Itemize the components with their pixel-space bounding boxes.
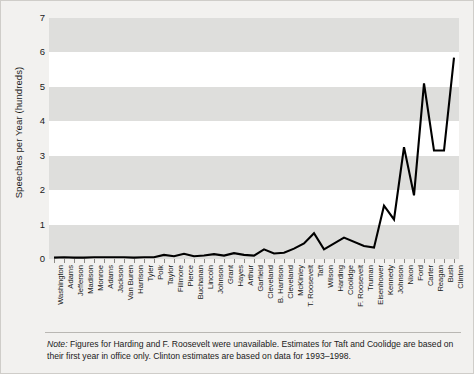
x-axis-tick-label: Garfield xyxy=(257,265,265,292)
x-axis-tick xyxy=(244,259,245,263)
y-axis-tick-label: 1 xyxy=(40,220,45,230)
x-axis-tick-label: Clinton xyxy=(457,265,465,289)
x-axis-tick-label: Nixon xyxy=(407,265,415,284)
y-axis-tick-label: 4 xyxy=(40,117,45,127)
x-axis-tick xyxy=(74,259,75,263)
x-axis-tick-label: Johnson xyxy=(397,265,405,294)
x-axis-tick-label: Van Buren xyxy=(127,265,135,300)
note-text: Figures for Harding and F. Roosevelt wer… xyxy=(47,339,453,361)
x-axis-tick xyxy=(274,259,275,263)
x-axis-tick xyxy=(174,259,175,263)
x-axis-tick xyxy=(124,259,125,263)
x-axis-tick xyxy=(234,259,235,263)
x-axis-tick xyxy=(184,259,185,263)
x-axis-tick-label: Adams xyxy=(67,265,75,289)
x-axis-tick-label: Truman xyxy=(367,265,375,291)
note-lead: Note: xyxy=(47,339,68,349)
y-axis-tick-label: 3 xyxy=(40,151,45,161)
x-axis-tick-label: McKinley xyxy=(297,265,305,296)
x-axis-tick-label: Madison xyxy=(87,265,95,294)
x-axis-tick xyxy=(224,259,225,263)
x-axis-tick-labels: WashingtonAdamsJeffersonMadisonMonroeAda… xyxy=(49,265,459,329)
y-axis-tick-label: 2 xyxy=(40,185,45,195)
speeches-per-year-line xyxy=(54,58,454,258)
plot-area xyxy=(49,18,459,259)
y-axis-tick-label: 0 xyxy=(40,254,45,264)
x-axis-tick-label: Monroe xyxy=(97,265,105,291)
x-axis-tick-label: Reagan xyxy=(437,265,445,292)
x-axis-tick xyxy=(314,259,315,263)
x-axis-tick-label: Bush xyxy=(447,265,455,282)
x-axis-tick-label: Tyler xyxy=(147,265,155,281)
y-axis-title: Speeches per Year (hundreds) xyxy=(9,1,29,263)
y-axis-tick-label: 5 xyxy=(40,82,45,92)
y-axis-title-text: Speeches per Year (hundreds) xyxy=(14,66,25,198)
x-axis-tick-label: Washington xyxy=(57,265,65,305)
x-axis-tick-label: Jefferson xyxy=(77,265,85,296)
x-axis-tick xyxy=(194,259,195,263)
note-divider xyxy=(45,332,461,333)
x-axis-tick xyxy=(134,259,135,263)
x-axis-tick xyxy=(64,259,65,263)
x-axis-tick-label: Eisenhower xyxy=(377,265,385,305)
x-axis-tick-label: Hayes xyxy=(237,265,245,287)
x-axis-tick-label: Polk xyxy=(157,265,165,280)
x-axis-tick-label: Cleveland xyxy=(287,265,295,299)
x-axis-tick xyxy=(324,259,325,263)
x-axis-tick xyxy=(54,259,55,263)
line-series-svg xyxy=(49,18,459,259)
x-axis-tick-label: Harding xyxy=(337,265,345,292)
x-axis-tick xyxy=(384,259,385,263)
x-axis-tick-label: Coolidge xyxy=(347,265,355,295)
x-axis-tick xyxy=(444,259,445,263)
x-axis-tick-label: Ford xyxy=(417,265,425,281)
x-axis-tick-label: Grant xyxy=(227,265,235,284)
y-axis-tick-label: 7 xyxy=(40,13,45,23)
x-axis-tick-label: Jackson xyxy=(117,265,125,293)
x-axis-tick xyxy=(144,259,145,263)
x-axis-tick xyxy=(254,259,255,263)
x-axis-tick xyxy=(424,259,425,263)
x-axis-tick xyxy=(454,259,455,263)
x-axis-ticks xyxy=(49,259,459,263)
x-axis-tick xyxy=(94,259,95,263)
x-axis-tick xyxy=(414,259,415,263)
x-axis-tick-label: Kennedy xyxy=(387,265,395,295)
x-axis-tick xyxy=(204,259,205,263)
x-axis-tick-label: Lincoln xyxy=(207,265,215,289)
x-axis-tick xyxy=(294,259,295,263)
x-axis-tick-label: Cleveland xyxy=(267,265,275,299)
x-axis-tick-label: Fillmore xyxy=(177,265,185,292)
x-axis-tick-label: Taylor xyxy=(167,265,175,285)
x-axis-tick xyxy=(434,259,435,263)
x-axis-tick xyxy=(84,259,85,263)
x-axis-tick xyxy=(214,259,215,263)
x-axis-tick xyxy=(304,259,305,263)
x-axis-tick xyxy=(104,259,105,263)
x-axis-tick-label: B. Harrison xyxy=(277,265,285,303)
x-axis-tick-label: Carter xyxy=(427,265,435,286)
x-axis-tick xyxy=(394,259,395,263)
x-axis-tick-label: Harrison xyxy=(137,265,145,294)
x-axis-tick-label: Johnson xyxy=(217,265,225,294)
x-axis-tick xyxy=(154,259,155,263)
chart-figure: Speeches per Year (hundreds) 01234567 Wa… xyxy=(0,0,474,374)
x-axis-tick xyxy=(164,259,165,263)
x-axis-tick-label: T. Roosevelt xyxy=(307,265,315,307)
x-axis-tick-label: Taft xyxy=(317,265,325,277)
x-axis-tick xyxy=(114,259,115,263)
x-axis-tick xyxy=(354,259,355,263)
chart-note: Note: Figures for Harding and F. Rooseve… xyxy=(47,338,459,363)
x-axis-tick xyxy=(334,259,335,263)
x-axis-tick-label: Wilson xyxy=(327,265,335,288)
y-axis-tick-label: 6 xyxy=(40,48,45,58)
x-axis-tick-label: Adams xyxy=(107,265,115,289)
x-axis-tick xyxy=(364,259,365,263)
x-axis-tick-label: Pierce xyxy=(187,265,195,287)
x-axis-tick xyxy=(284,259,285,263)
x-axis-tick-label: Arthur xyxy=(247,265,255,286)
x-axis-tick-label: Buchanan xyxy=(197,265,205,299)
x-axis-tick xyxy=(264,259,265,263)
y-axis-tick-labels: 01234567 xyxy=(27,1,45,374)
x-axis-tick xyxy=(374,259,375,263)
